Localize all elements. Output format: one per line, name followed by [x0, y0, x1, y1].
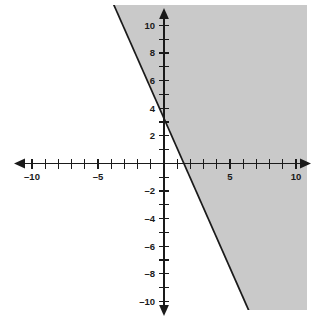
y-tick-label: –8 — [144, 268, 155, 279]
shaded-solution-region — [114, 5, 307, 310]
y-tick-label: 10 — [144, 20, 155, 31]
y-tick-label: 8 — [150, 47, 155, 58]
y-tick-label: –2 — [144, 185, 155, 196]
y-tick-label: 6 — [150, 75, 155, 86]
y-tick-label: 4 — [150, 103, 156, 114]
y-tick-label: –6 — [144, 241, 155, 252]
y-tick-label: –4 — [144, 213, 155, 224]
y-tick-label: 2 — [150, 130, 155, 141]
x-tick-label: –5 — [93, 171, 104, 182]
inequality-graph: –10 –5 5 10 10 8 6 4 2 –2 –4 –6 –8 –10 — [0, 0, 325, 324]
y-axis-bottom-arrow — [159, 305, 169, 316]
x-axis-left-arrow — [14, 159, 25, 169]
y-tick-label: –10 — [139, 296, 155, 307]
x-tick-label: 5 — [227, 171, 233, 182]
x-tick-label: 10 — [291, 171, 302, 182]
coordinate-plane-svg: –10 –5 5 10 10 8 6 4 2 –2 –4 –6 –8 –10 — [0, 0, 325, 324]
x-tick-label: –10 — [24, 171, 40, 182]
